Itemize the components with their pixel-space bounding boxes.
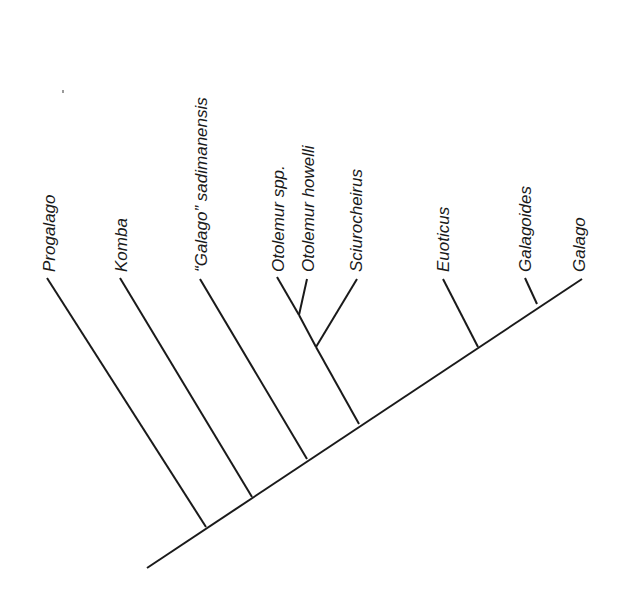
branch-otolemur-stem (299, 315, 316, 347)
label-euoticus: Euoticus (434, 206, 453, 272)
label-sciurocheirus: Sciurocheirus (347, 169, 366, 272)
branch-komba (120, 278, 252, 497)
label-komba: Komba (112, 218, 131, 272)
label-galago: Galago (570, 217, 589, 272)
branch-galago-sadimanensis (200, 279, 307, 459)
label-progalago: Progalago (40, 194, 59, 272)
branch-euoticus (443, 279, 478, 347)
branch-progalago (47, 278, 206, 527)
label-galagoides: Galagoides (516, 185, 535, 272)
label-otolemur-howelli: Otolemur howelli (299, 144, 318, 272)
phylogenetic-tree: Progalago Komba “Galago” sadimanensis Ot… (0, 0, 627, 590)
branch-otolemur-spp (277, 277, 299, 315)
branch-sciurocheirus (316, 279, 357, 347)
label-otolemur-spp: Otolemur spp. (269, 165, 288, 272)
main-spine-branch (147, 279, 582, 568)
stray-speck (62, 90, 64, 93)
label-galago-sadimanensis: “Galago” sadimanensis (192, 97, 211, 272)
branch-galagoides (525, 278, 537, 304)
branch-otolemur-howelli (299, 279, 307, 315)
branch-otolemur-sciurocheirus-stem (316, 347, 359, 424)
